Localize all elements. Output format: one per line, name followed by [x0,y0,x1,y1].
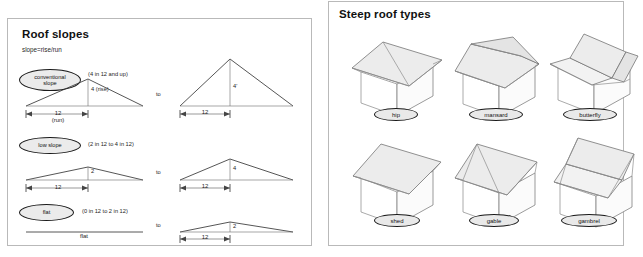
house-butterfly [544,22,643,112]
roof-slopes-panel: Roof slopes slope=rise/run conventional … [7,18,312,246]
house-mansard [447,22,547,112]
house-gable [447,130,547,220]
caption-hip: hip [374,108,418,121]
caption-butterfly: butterfly [563,108,617,121]
house-gambrel [544,128,643,220]
rise-label-flat-right: 2 [233,223,236,229]
caption-gable: gable [469,214,519,227]
caption-mansard: mansard [469,108,523,121]
caption-gambrel: gambrel [561,214,617,227]
house-hip [347,24,447,112]
caption-shed: shed [374,214,420,227]
run-label-flat-right: 12 [185,234,225,241]
diagram-flat-right [8,19,313,245]
steep-roof-types-panel: Steep roof types hip mansard butterfly [328,1,624,246]
house-shed [347,132,447,220]
page-title-steep-roof-types: Steep roof types [339,8,431,20]
